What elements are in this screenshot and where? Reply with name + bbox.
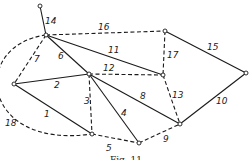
node-J <box>244 71 248 75</box>
node-C <box>12 82 16 86</box>
edge-2 <box>14 74 89 84</box>
node-F <box>137 141 141 145</box>
edge-label-16: 16 <box>98 22 110 32</box>
node-I <box>163 29 167 33</box>
edge-10 <box>180 73 246 124</box>
edge-label-17: 17 <box>167 50 179 60</box>
edge-label-13: 13 <box>172 90 184 100</box>
node-E <box>90 132 94 136</box>
edge-1 <box>14 84 92 134</box>
edge-17 <box>163 31 165 75</box>
edge-label-8: 8 <box>140 91 146 101</box>
edge-label-15: 15 <box>207 42 219 52</box>
edge-label-11: 11 <box>108 45 119 55</box>
edge-9 <box>139 124 180 143</box>
node-D <box>87 72 91 76</box>
node-H <box>161 73 165 77</box>
edge-label-5: 5 <box>106 143 112 153</box>
edge-label-4: 4 <box>121 108 127 118</box>
edges-layer <box>0 6 246 143</box>
edge-label-1: 1 <box>44 109 50 119</box>
edge-label-9: 9 <box>163 134 169 144</box>
edge-label-3: 3 <box>84 96 90 106</box>
edge-12 <box>89 74 163 75</box>
edge-label-12: 12 <box>103 63 115 73</box>
edge-6 <box>46 35 89 74</box>
edge-label-18: 18 <box>5 118 17 128</box>
edge-label-7: 7 <box>34 54 40 64</box>
edge-label-14: 14 <box>45 16 57 26</box>
edge-label-6: 6 <box>58 51 64 61</box>
network-graph-diagram: 123456789101112131415161718 Fig. 11 <box>0 0 251 160</box>
edge-label-10: 10 <box>216 96 228 106</box>
node-A <box>38 4 42 8</box>
node-G <box>178 122 182 126</box>
edge-8 <box>89 74 180 124</box>
edge-4 <box>89 74 139 143</box>
node-B <box>44 33 48 37</box>
edge-7 <box>14 35 46 84</box>
edge-5 <box>92 134 139 143</box>
figure-caption: Fig. 11 <box>110 155 142 160</box>
edge-label-2: 2 <box>54 80 60 90</box>
